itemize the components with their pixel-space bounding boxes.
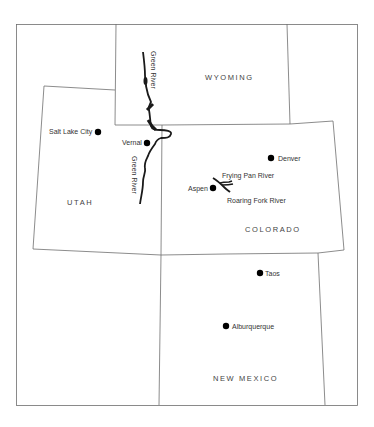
state-label-utah: UTAH <box>67 199 93 207</box>
map-frame <box>17 25 358 406</box>
state-label-wyoming: WYOMING <box>205 74 254 82</box>
city-dot-taos <box>257 270 263 276</box>
state-label-colorado: COLORADO <box>245 226 301 234</box>
new-mexico-east-border <box>318 253 325 405</box>
utah-border <box>33 86 161 255</box>
green-river-reservoir <box>144 77 148 85</box>
city-dot-vernal <box>144 140 150 146</box>
city-label-alburquerque: Alburquerque <box>232 323 274 330</box>
green-river-bulge <box>147 104 156 130</box>
city-dot-aspen <box>210 185 216 191</box>
city-dot-salt-lake-city <box>95 129 101 135</box>
city-label-taos: Taos <box>265 270 280 277</box>
city-dot-alburquerque <box>223 323 229 329</box>
colorado-east-border <box>333 121 344 250</box>
city-label-aspen: Aspen <box>188 185 208 192</box>
colorado-south-border <box>161 250 344 255</box>
map-canvas <box>0 0 374 427</box>
wyoming-west-border <box>115 24 116 125</box>
city-label-vernal: Vernal <box>122 139 142 146</box>
river-label-green-river-north: Green River <box>150 51 157 89</box>
river-label-frying-pan: Frying Pan River <box>222 172 274 179</box>
utah-colorado-border <box>159 125 162 405</box>
river-label-roaring-fork: Roaring Fork River <box>227 197 286 204</box>
river-label-green-river-south: Green River <box>131 156 138 194</box>
wyoming-east-border <box>287 24 290 124</box>
city-dot-denver <box>268 155 274 161</box>
city-label-salt-lake-city: Salt Lake City <box>49 128 92 135</box>
city-label-denver: Denver <box>278 155 301 162</box>
state-label-new-mexico: NEW MEXICO <box>213 375 278 383</box>
